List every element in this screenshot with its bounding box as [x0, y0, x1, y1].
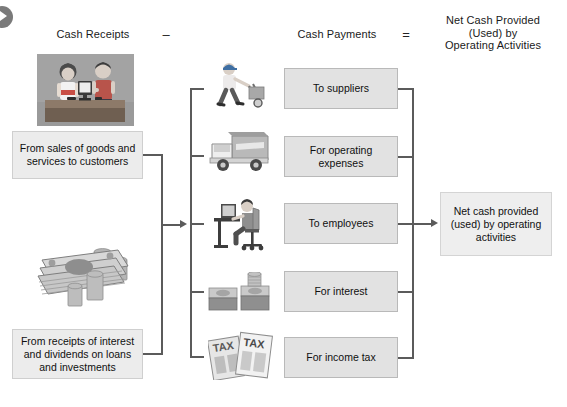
tax-forms-illustration: TAX TAX — [208, 330, 274, 380]
payment-box-for-income-tax[interactable]: For income tax — [284, 337, 398, 378]
header-net-cash-line-2: (Used) by — [423, 27, 563, 40]
minus-sign: – — [150, 28, 182, 41]
header-net-cash-line-1: Net Cash Provided — [423, 14, 563, 27]
header-net-cash-provided: Net Cash Provided (Used) by Operating Ac… — [423, 14, 563, 52]
connector-receipts-to-bracket — [161, 224, 181, 226]
payment-box-for-interest[interactable]: For interest — [284, 271, 398, 312]
bracket-payments-tick-1 — [190, 88, 204, 90]
payment-box-for-interest-label: For interest — [314, 285, 367, 298]
result-box-net-cash-operating[interactable]: Net cash provided (used) by operating ac… — [440, 192, 552, 256]
header-net-cash-line-3: Operating Activities — [423, 39, 563, 52]
result-box-net-cash-operating-label: Net cash provided (used) by operating ac… — [445, 205, 547, 244]
stacked-money-illustration — [207, 272, 273, 314]
receipt-box-interest-dividends-label: From receipts of interest and dividends … — [17, 335, 138, 374]
payment-box-to-employees-label: To employees — [309, 217, 374, 230]
arrow-receipts-to-payments — [180, 220, 187, 228]
connector-receipts-merge-vertical — [161, 154, 163, 355]
bracket-payments-tick-5 — [190, 356, 204, 358]
receipt-box-sales-label: From sales of goods and services to cust… — [17, 142, 138, 168]
receipt-box-interest-dividends[interactable]: From receipts of interest and dividends … — [12, 329, 143, 379]
cash-flow-operating-activities-diagram: Cash Receipts – Cash Payments = Net Cash… — [0, 0, 567, 407]
payment-box-operating-expenses-label: For operating expenses — [289, 144, 393, 170]
connector-receipt-1-stub — [143, 154, 163, 156]
cash-and-coins-illustration — [32, 230, 138, 314]
bracket-payments-tick-3 — [190, 223, 204, 225]
header-cash-receipts: Cash Receipts — [18, 28, 168, 41]
payment-box-to-employees[interactable]: To employees — [284, 203, 398, 244]
bracket-payments-tick-2 — [190, 155, 204, 157]
office-worker-desk-illustration — [212, 196, 270, 254]
payment-box-to-suppliers[interactable]: To suppliers — [284, 68, 398, 109]
bracket-payments-tick-4 — [190, 291, 204, 293]
payment-box-to-suppliers-label: To suppliers — [313, 82, 369, 95]
receipt-box-sales[interactable]: From sales of goods and services to cust… — [12, 131, 143, 179]
connector-payments-to-result — [412, 223, 432, 225]
equals-sign: = — [392, 28, 420, 41]
arrow-payments-to-result — [431, 219, 438, 227]
connector-receipt-2-stub — [143, 353, 163, 355]
delivery-truck-illustration — [206, 130, 274, 174]
delivery-person-hand-truck-illustration — [208, 60, 270, 108]
payment-box-operating-expenses[interactable]: For operating expenses — [284, 136, 398, 177]
payment-box-for-income-tax-label: For income tax — [306, 351, 375, 364]
page-corner-marker-icon — [0, 6, 13, 28]
cashier-counter-illustration — [37, 54, 134, 126]
